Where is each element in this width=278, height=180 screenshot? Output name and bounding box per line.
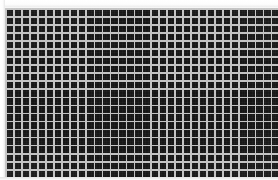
top-margin-band [0, 0, 278, 7]
image-canvas [0, 0, 278, 180]
grid-cell-texture-overlay [5, 8, 278, 178]
grid-mesh-pattern [5, 8, 278, 178]
bottom-margin-band [0, 177, 278, 180]
grid-vignette-overlay [5, 8, 278, 178]
left-margin-band [0, 0, 5, 180]
